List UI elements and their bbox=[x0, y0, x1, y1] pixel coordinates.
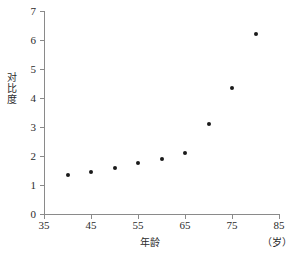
data-point bbox=[207, 122, 211, 126]
data-point bbox=[113, 166, 117, 170]
data-point bbox=[230, 86, 234, 90]
data-point bbox=[254, 32, 258, 36]
data-point bbox=[66, 173, 70, 177]
plot-area bbox=[0, 0, 308, 255]
data-point bbox=[160, 157, 164, 161]
data-point bbox=[183, 151, 187, 155]
scatter-chart: 01234567 354555657585 对比度 年龄 （岁） bbox=[0, 0, 308, 255]
data-point bbox=[136, 161, 140, 165]
data-point bbox=[89, 170, 93, 174]
